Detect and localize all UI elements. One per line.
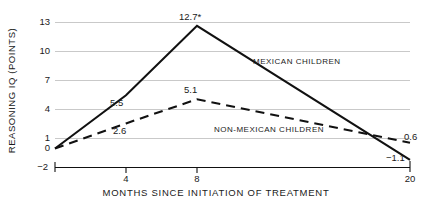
- y-tick-label-4: 4: [24, 103, 50, 114]
- data-label-non-mexican-month20: 0.6: [404, 131, 417, 142]
- series-annotation-non-mexican: NON-MEXICAN CHILDREN: [214, 125, 324, 134]
- chart-figure: REASONING IQ (POINTS) MONTHS SINCE INITI…: [0, 0, 432, 207]
- data-label-mexican-month8: 12.7*: [179, 11, 201, 22]
- x-tick-label-8: 8: [184, 173, 210, 184]
- y-tick-label-7: 7: [24, 74, 50, 85]
- series-annotation-mexican: MEXICAN CHILDREN: [253, 57, 341, 66]
- chart-plot-area: [0, 0, 432, 207]
- data-label-non-mexican-month4: 2.6: [113, 125, 126, 136]
- data-label-non-mexican-month8: 5.1: [184, 84, 197, 95]
- x-tick-label-4: 4: [113, 173, 139, 184]
- series-line-non-mexican: [55, 99, 410, 148]
- y-tick-label-13: 13: [24, 16, 50, 27]
- y-tick-label-0: 0: [24, 142, 50, 153]
- gridlines: [55, 23, 410, 139]
- data-label-mexican-month20: −1.1: [386, 152, 405, 163]
- x-axis-title: MONTHS SINCE INITIATION OF TREATMENT: [0, 187, 432, 198]
- series-line-mexican: [55, 26, 410, 160]
- y-axis-title: REASONING IQ (POINTS): [2, 0, 22, 180]
- y-axis-title-text: REASONING IQ (POINTS): [7, 27, 18, 153]
- data-label-mexican-month4: 5.5: [110, 97, 123, 108]
- y-tick-label-neg2: −2: [22, 161, 48, 172]
- y-tick-label-10: 10: [24, 45, 50, 56]
- x-tick-label-20: 20: [397, 173, 423, 184]
